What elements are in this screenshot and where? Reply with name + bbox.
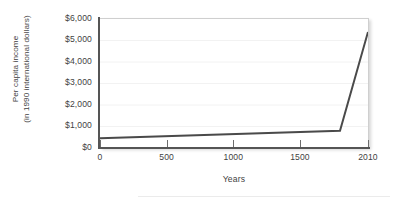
plot-canvas [100,19,368,148]
page-rule [138,196,390,197]
x-axis-tick-mark [233,140,234,147]
x-axis-tick-label: 2010 [338,152,393,162]
x-axis-tick-label: 1000 [203,152,263,162]
x-axis-tick-mark [300,140,301,147]
y-axis-tick-label: $4,000 [40,56,92,66]
y-axis-tick-label: $0 [40,142,92,152]
x-axis-title: Years [100,174,368,184]
y-axis-tick-label: $3,000 [40,77,92,87]
data-line [100,32,368,138]
gridlines [100,41,368,127]
y-axis-line [98,17,100,148]
x-axis-tick-mark [100,140,101,147]
plot-area [100,18,369,148]
x-axis-line [98,147,370,149]
y-axis-title-line-1: Per capita income [11,36,22,102]
y-axis-tick-label: $5,000 [40,34,92,44]
y-axis-tick-label: $2,000 [40,99,92,109]
y-axis-tick-label: $1,000 [40,120,92,130]
y-axis-tick-label: $6,000 [40,13,92,23]
x-axis-tick-mark [167,140,168,147]
x-axis-tick-label: 500 [137,152,197,162]
y-axis-tick-labels: $0$1,000$2,000$3,000$4,000$5,000$6,000 [40,12,92,153]
y-axis-title-line-2: (in 1990 international dollars) [22,15,33,122]
x-axis-tick-mark [368,140,369,147]
chart-figure: Per capita income (in 1990 international… [0,0,393,203]
y-axis-title: Per capita income (in 1990 international… [5,4,39,134]
x-axis-tick-label: 0 [70,152,130,162]
data-series-group [100,32,368,138]
x-axis-tick-label: 1500 [270,152,330,162]
